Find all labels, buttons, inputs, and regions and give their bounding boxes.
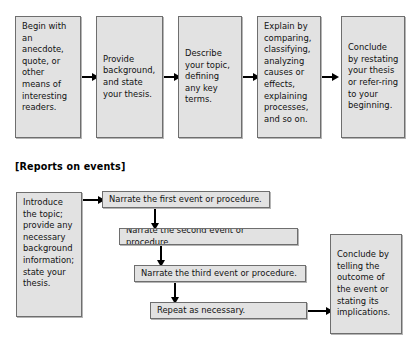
arrow-explain-to-conclude <box>322 76 333 78</box>
flow-box-third-event[interactable]: Narrate the third event or procedure. <box>134 265 306 282</box>
arrow-head-icon <box>332 73 339 81</box>
flow-box-conclude-report-text: Conclude by telling the outcome of the e… <box>337 249 396 319</box>
arrow-begin-to-background <box>82 76 93 78</box>
flow-box-describe[interactable]: Describe your topic, defining any key te… <box>178 16 242 138</box>
flow-box-explain-text: Explain by comparing, classifying, analy… <box>264 21 315 125</box>
flow-box-introduce[interactable]: Introduce the topic; provide any necessa… <box>16 192 82 317</box>
flow-box-second-event-text: Narrate the second event or procedure. <box>126 228 292 245</box>
arrow-first-to-second-event <box>154 209 156 224</box>
arrow-second-to-third-event <box>160 246 162 261</box>
flow-box-conclude-text: Conclude by restating your thesis or ref… <box>348 42 399 112</box>
arrow-describe-to-explain <box>243 76 254 78</box>
flow-box-repeat[interactable]: Repeat as necessary. <box>150 302 307 319</box>
arrow-third-to-repeat <box>174 283 176 298</box>
flow-box-begin-text: Begin with an anecdote, quote, or other … <box>22 21 75 114</box>
flow-box-conclude[interactable]: Conclude by restating your thesis or ref… <box>341 16 405 138</box>
arrow-introduce-to-first-event <box>83 199 99 201</box>
section-heading-reports-on-events: [Reports on events] <box>15 161 126 172</box>
flow-box-background-text: Provide background, and state your thesi… <box>103 54 157 100</box>
flow-box-explain[interactable]: Explain by comparing, classifying, analy… <box>257 16 321 138</box>
flow-box-repeat-text: Repeat as necessary. <box>157 305 245 317</box>
flow-box-first-event-text: Narrate the first event or procedure. <box>109 194 262 206</box>
flow-box-third-event-text: Narrate the third event or procedure. <box>141 268 297 280</box>
flow-box-begin[interactable]: Begin with an anecdote, quote, or other … <box>15 16 81 138</box>
arrow-background-to-describe <box>164 76 175 78</box>
flow-box-first-event[interactable]: Narrate the first event or procedure. <box>102 191 270 208</box>
flow-box-introduce-text: Introduce the topic; provide any necessa… <box>23 197 76 290</box>
arrow-repeat-to-conclude-report <box>308 310 327 312</box>
flow-box-describe-text: Describe your topic, defining any key te… <box>185 48 236 106</box>
flow-box-conclude-report[interactable]: Conclude by telling the outcome of the e… <box>330 234 402 334</box>
flow-box-background[interactable]: Provide background, and state your thesi… <box>96 16 163 138</box>
flow-box-second-event[interactable]: Narrate the second event or procedure. <box>119 228 298 245</box>
